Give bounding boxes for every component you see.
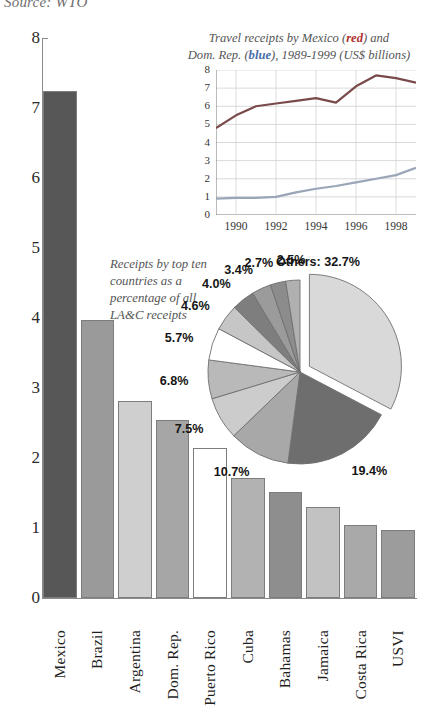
bar-chart-x-axis (42, 598, 417, 599)
line-y-label-7: 7 (194, 81, 210, 93)
x-label-slot: USVI (381, 630, 415, 723)
line-chart-svg (216, 70, 416, 215)
bar-usvi[interactable] (381, 530, 415, 598)
x-label-slot: Mexico (43, 630, 77, 723)
bar-cuba[interactable] (231, 478, 265, 598)
x-axis-label-costa-rica: Costa Rica (352, 630, 370, 700)
x-label-slot: Bahamas (269, 630, 303, 723)
pie-label-bahamas: 4.0% (202, 277, 231, 291)
pie-label-costa-rica: 2.7% (244, 256, 273, 270)
x-axis-label-dom-rep: Dom. Rep. (164, 630, 182, 699)
pie-label-cuba: 4.6% (181, 299, 210, 313)
legend-mexico-red: red (346, 31, 363, 45)
y-tick-label-7: 7 (10, 98, 40, 118)
x-axis-label-usvi: USVI (389, 630, 407, 667)
line-chart-inset: Travel receipts by Mexico (red) and Dom.… (196, 30, 423, 245)
x-label-slot: Jamaica (306, 630, 340, 723)
line-x-label-1990: 1990 (225, 220, 248, 232)
pie-chart-svg (182, 260, 423, 478)
x-axis-label-argentina: Argentina (126, 630, 144, 694)
x-label-slot: Argentina (118, 630, 152, 723)
x-axis-label-cuba: Cuba (239, 630, 257, 664)
bar-costa-rica[interactable] (344, 525, 378, 598)
legend-domrep-blue: blue (249, 48, 271, 62)
y-tick-label-1: 1 (10, 518, 40, 538)
pie-label-dom-rep: 10.7% (214, 465, 250, 479)
x-label-slot: Cuba (231, 630, 265, 723)
x-label-slot: Brazil (81, 630, 115, 723)
line-chart-title: Travel receipts by Mexico (red) and Dom.… (174, 30, 423, 64)
y-tick-label-5: 5 (10, 238, 40, 258)
x-axis-label-mexico: Mexico (51, 630, 69, 679)
line-x-label-1994: 1994 (305, 220, 328, 232)
line-y-label-3: 3 (194, 154, 210, 166)
bar-chart-x-labels: MexicoBrazilArgentinaDom. Rep.Puerto Ric… (43, 630, 415, 723)
bar-slot (43, 38, 77, 598)
line-y-label-5: 5 (194, 117, 210, 129)
bar-bahamas[interactable] (269, 492, 303, 598)
line-y-label-4: 4 (194, 136, 210, 148)
y-tick-label-6: 6 (10, 168, 40, 188)
pie-label-usvi: 2.5% (277, 253, 306, 267)
source-note: Source: WTO (4, 0, 87, 11)
bar-mexico[interactable] (43, 91, 77, 599)
pie-label-argentina: 5.7% (165, 331, 194, 345)
y-tick-label-8: 8 (10, 28, 40, 48)
x-axis-label-puerto-rico: Puerto Rico (201, 630, 219, 706)
line-x-label-1996: 1996 (345, 220, 368, 232)
pie-label-brazil: 7.5% (175, 422, 204, 436)
line-y-label-0: 0 (194, 208, 210, 220)
line-y-label-8: 8 (194, 63, 210, 75)
y-tick-label-0: 0 (10, 588, 40, 608)
pie-chart-block: Receipts by top tencountries as apercent… (110, 252, 423, 477)
line-y-label-2: 2 (194, 172, 210, 184)
pie-label-mexico: 19.4% (351, 464, 387, 478)
line-chart-plot-area (216, 70, 416, 215)
line-x-label-1998: 1998 (385, 220, 408, 232)
y-tick-0 (42, 598, 48, 599)
x-label-slot: Puerto Rico (193, 630, 227, 723)
y-tick-label-4: 4 (10, 308, 40, 328)
bar-jamaica[interactable] (306, 507, 340, 598)
y-tick-label-3: 3 (10, 378, 40, 398)
x-label-slot: Costa Rica (344, 630, 378, 723)
line-title-line1: Travel receipts by Mexico (red) and (209, 31, 389, 45)
x-axis-label-bahamas: Bahamas (276, 630, 294, 688)
x-axis-label-brazil: Brazil (88, 630, 106, 669)
x-axis-label-jamaica: Jamaica (314, 630, 332, 681)
chart-page: Source: WTO 012345678 MexicoBrazilArgent… (0, 0, 423, 723)
line-x-label-1992: 1992 (265, 220, 288, 232)
x-label-slot: Dom. Rep. (156, 630, 190, 723)
line-title-line2: Dom. Rep. (blue), 1989-1999 (US$ billion… (188, 48, 410, 62)
pie-label-puerto-rico: 6.8% (160, 374, 189, 388)
y-tick-label-2: 2 (10, 448, 40, 468)
line-y-label-1: 1 (194, 190, 210, 202)
line-y-label-6: 6 (194, 99, 210, 111)
